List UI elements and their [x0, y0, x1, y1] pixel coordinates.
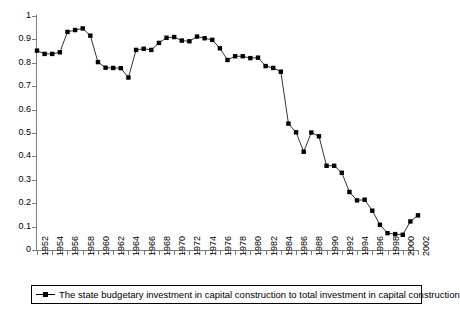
data-point-marker: 1969: 0.907	[164, 36, 168, 40]
data-point-marker: 1996: 0.168	[370, 208, 374, 212]
data-point-marker: 1986: 0.503	[294, 130, 298, 134]
data-point-marker: 1954: 0.838	[50, 52, 54, 56]
data-point-marker: 1960: 0.803	[96, 60, 100, 64]
legend-label: The state budgetary investment in capita…	[59, 289, 460, 300]
data-point-marker: 1984: 0.762	[279, 69, 283, 73]
data-point-marker: 1992: 0.33	[340, 171, 344, 175]
data-point-marker: 1978: 0.828	[233, 54, 237, 58]
data-point-marker: 1974: 0.905	[202, 36, 206, 40]
data-point-marker: 1988: 0.502	[309, 130, 313, 134]
data-point-marker: 1963: 0.777	[119, 66, 123, 70]
data-point-marker: 1983: 0.778	[271, 66, 275, 70]
series-markers: 1952: 0.8521953: 0.8381954: 0.8381955: 0…	[35, 26, 420, 237]
data-point-marker: 1985: 0.54	[286, 121, 290, 125]
data-point-marker: 1982: 0.786	[263, 64, 267, 68]
data-point-marker: 1977: 0.812	[225, 58, 229, 62]
data-point-marker: 1995: 0.215	[362, 197, 366, 201]
data-point-marker: 1991: 0.36	[332, 164, 336, 168]
data-point-marker: 1972: 0.892	[187, 39, 191, 43]
data-point-marker: 1975: 0.898	[210, 38, 214, 42]
data-point-marker: 1968: 0.885	[157, 41, 161, 45]
data-point-marker: 1970: 0.91	[172, 35, 176, 39]
data-point-marker: 1955: 0.845	[58, 50, 62, 54]
data-point-marker: 1957: 0.94	[73, 28, 77, 32]
data-point-marker: 2001: 0.122	[408, 219, 412, 223]
data-point-marker: 1953: 0.838	[42, 52, 46, 56]
data-point-marker: 1979: 0.828	[241, 54, 245, 58]
data-point-marker: 1989: 0.486	[317, 134, 321, 138]
data-point-marker: 1962: 0.778	[111, 66, 115, 70]
data-point-marker: 1990: 0.36	[324, 164, 328, 168]
data-point-marker: 1965: 0.855	[134, 48, 138, 52]
data-point-marker: 1997: 0.108	[378, 223, 382, 227]
data-point-marker: 1980: 0.82	[248, 56, 252, 60]
legend-marker-icon	[36, 290, 55, 299]
data-point-marker: 1993: 0.248	[347, 190, 351, 194]
data-point-marker: 1994: 0.212	[355, 198, 359, 202]
data-point-marker: 1976: 0.862	[218, 46, 222, 50]
data-point-marker: 2000: 0.065	[401, 233, 405, 237]
data-point-marker: 1966: 0.86	[141, 47, 145, 51]
data-point-marker: 1967: 0.855	[149, 48, 153, 52]
data-point-marker: 1958: 0.947	[81, 26, 85, 30]
data-point-marker: 1998: 0.072	[385, 231, 389, 235]
data-point-marker: 1999: 0.068	[393, 232, 397, 236]
data-point-marker: 1956: 0.932	[65, 30, 69, 34]
data-point-marker: 1981: 0.822	[256, 55, 260, 59]
data-point-marker: 1959: 0.916	[88, 33, 92, 37]
data-point-marker: 1964: 0.737	[126, 75, 130, 79]
data-point-marker: 1971: 0.895	[180, 38, 184, 42]
data-point-marker: 1973: 0.912	[195, 34, 199, 38]
chart-legend: The state budgetary investment in capita…	[31, 285, 422, 304]
data-point-marker: 1952: 0.852	[35, 48, 39, 52]
data-point-marker: 2002: 0.148	[416, 213, 420, 217]
data-point-marker: 1987: 0.42	[302, 150, 306, 154]
data-point-marker: 1961: 0.779	[103, 66, 107, 70]
